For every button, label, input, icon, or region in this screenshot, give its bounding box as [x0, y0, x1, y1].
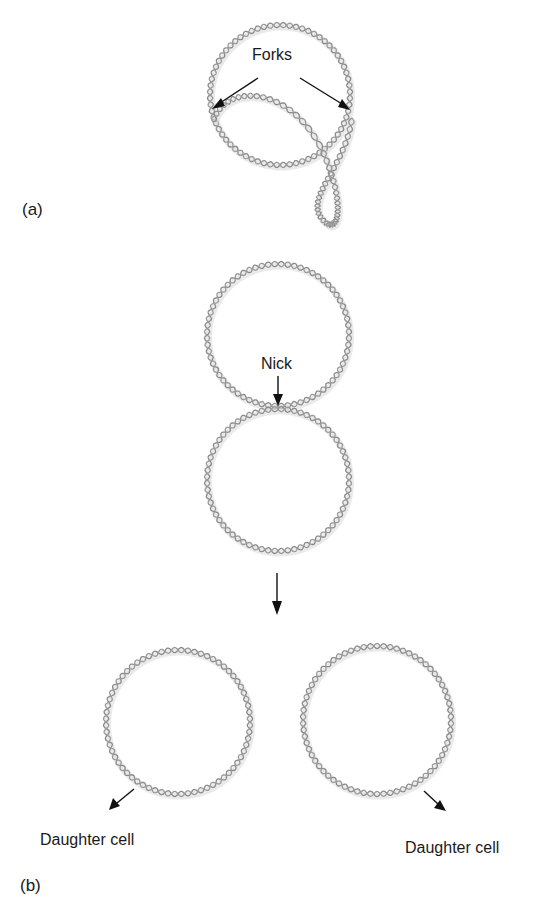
- daughter-cell-label-right: Daughter cell: [405, 839, 499, 857]
- diagram-stage: Forks (a) Nick Daughter cell Daughter ce…: [0, 0, 560, 915]
- dna-circle-parent: [208, 23, 353, 168]
- dna-circle-lower: [205, 407, 352, 554]
- dna-replication-diagram: [0, 0, 560, 915]
- daughter-arrow-right-icon: [424, 791, 446, 811]
- panel-a-label: (a): [22, 200, 43, 220]
- nick-label: Nick: [261, 355, 292, 373]
- dna-circle-daughter-right: [301, 643, 454, 796]
- daughter-arrow-left-icon: [109, 789, 134, 810]
- dna-helix-group: [104, 23, 454, 797]
- fork-arrow-right-icon: [300, 78, 350, 110]
- dna-replicated-loop: [212, 93, 355, 227]
- panel-b-label: (b): [20, 876, 41, 896]
- separation-arrow-icon: [272, 573, 282, 615]
- dna-circle-daughter-left: [104, 648, 253, 797]
- nick-arrow-icon: [273, 376, 283, 406]
- daughter-cell-label-left: Daughter cell: [40, 831, 134, 849]
- forks-label: Forks: [252, 46, 292, 64]
